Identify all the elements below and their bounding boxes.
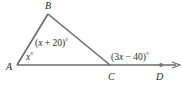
label-b: B xyxy=(45,0,51,11)
angle-a-label: x° xyxy=(25,51,33,62)
angle-c-deg: ° xyxy=(146,51,149,59)
point-d xyxy=(159,63,163,67)
angle-c-rest: − 40) xyxy=(123,52,146,63)
angle-a-deg: ° xyxy=(30,51,33,59)
angle-b-label: (x + 20)° xyxy=(35,37,68,49)
triangle-diagram: A B C D x° (x + 20)° (3x − 40)° xyxy=(0,0,181,86)
angle-exterior-c-label: (3x − 40)° xyxy=(111,51,149,63)
label-a: A xyxy=(5,61,13,72)
angle-b-rest: + 20) xyxy=(42,38,65,49)
label-c: C xyxy=(108,71,115,82)
angle-b-deg: ° xyxy=(65,37,68,45)
label-d: D xyxy=(155,71,164,82)
